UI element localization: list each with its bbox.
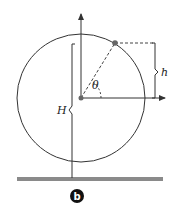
theta-label: θ [92, 79, 99, 92]
H-label: H [56, 104, 67, 117]
moving-point [112, 40, 118, 46]
h-brace [152, 43, 158, 98]
figure-badge-label: b [73, 191, 80, 202]
H-bracket [69, 44, 75, 178]
ground-surface [17, 177, 163, 181]
h-label: h [161, 66, 168, 79]
diagram-canvas: θ h H b [0, 0, 177, 211]
center-point [79, 96, 84, 101]
